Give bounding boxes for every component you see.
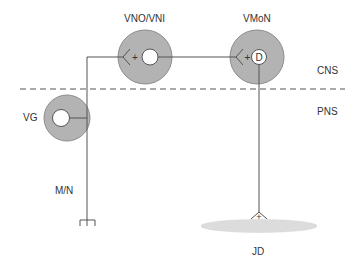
label-vg: VG (23, 112, 37, 123)
label-mn: M/N (55, 185, 73, 196)
vg-soma (53, 110, 70, 127)
connections (70, 57, 268, 226)
svg-text:+: + (245, 52, 251, 63)
vmon-neuron: D + (230, 30, 284, 84)
jd-muscle (201, 220, 317, 233)
svg-text:D: D (255, 52, 262, 63)
label-jd: JD (252, 246, 264, 257)
mn-terminal-icon (80, 220, 95, 226)
label-vmon: VMoN (243, 13, 271, 24)
label-pns: PNS (317, 106, 338, 117)
label-vno-vni: VNO/VNI (124, 13, 165, 24)
neural-pathway-diagram: + D + + (0, 0, 355, 261)
vno-vni-soma (142, 49, 158, 65)
svg-text:+: + (132, 52, 138, 63)
label-cns: CNS (317, 65, 338, 76)
